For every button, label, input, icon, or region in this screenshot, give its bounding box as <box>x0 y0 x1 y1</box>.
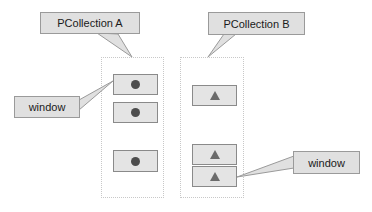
window-left-tail <box>79 81 113 110</box>
callout-window-right: window <box>293 151 360 174</box>
pcollection-b-tail <box>208 34 236 57</box>
diagram-canvas: PCollection A PCollection B window windo… <box>0 0 372 212</box>
callout-window-left-label: window <box>29 101 66 113</box>
callout-pcollection-b-label: PCollection B <box>223 18 289 30</box>
callout-pcollection-a-label: PCollection A <box>57 17 122 29</box>
window-right-tail <box>237 156 294 177</box>
callout-pcollection-b: PCollection B <box>208 12 305 35</box>
callout-pcollection-a: PCollection A <box>40 12 140 34</box>
callout-window-right-label: window <box>308 157 345 169</box>
callout-window-left: window <box>14 96 80 118</box>
pcollection-a-tail <box>97 33 132 57</box>
